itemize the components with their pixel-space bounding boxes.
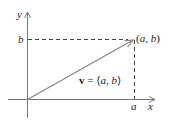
vector-v-arrow: [28, 40, 134, 100]
y-tick-label-b: b: [18, 33, 24, 45]
vector-label: v = ⟨a, b⟩: [79, 74, 121, 86]
x-axis-label: x: [147, 100, 153, 112]
vector-diagram: y x b a (a, b) v = ⟨a, b⟩: [0, 0, 171, 122]
point-label: (a, b): [136, 32, 160, 45]
y-axis-label: y: [16, 8, 22, 20]
x-tick-label-a: a: [131, 100, 137, 112]
